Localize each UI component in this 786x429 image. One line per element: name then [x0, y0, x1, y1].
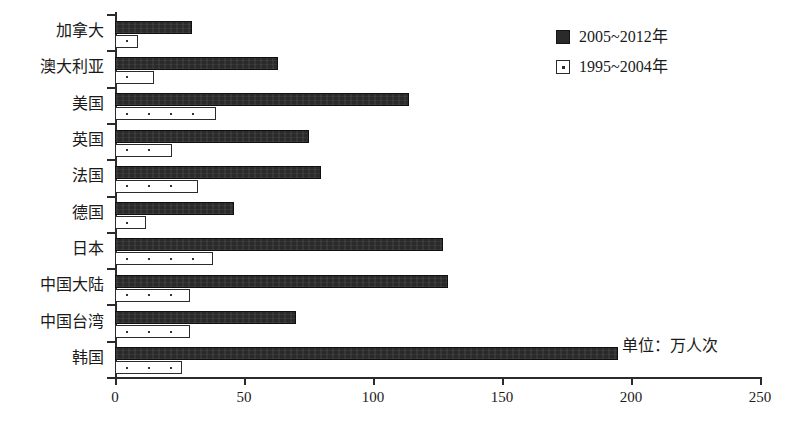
legend-swatch-white-dotted-square	[556, 60, 570, 74]
category-label-1: 澳大利亚	[0, 57, 104, 77]
bar-dot-pattern	[116, 112, 215, 116]
legend-item-1: 1995~2004年	[556, 52, 668, 82]
bar-20052012-4	[115, 166, 321, 179]
x-tick-label-0: 0	[85, 388, 145, 406]
legend-label-1: 1995~2004年	[579, 58, 668, 76]
category-label-7: 中国大陆	[0, 275, 104, 295]
bar-20052012-3	[115, 130, 309, 143]
legend-item-0: 2005~2012年	[556, 22, 668, 52]
legend-label-0: 2005~2012年	[579, 28, 668, 46]
bar-20052012-6	[115, 238, 443, 251]
bar-19952004-9	[115, 361, 182, 374]
bar-dot-pattern	[116, 257, 212, 261]
bar-dot-pattern	[116, 148, 171, 152]
unit-annotation: 单位：万人次	[622, 336, 718, 356]
category-label-0: 加拿大	[0, 21, 104, 41]
category-label-3: 英国	[0, 130, 104, 150]
chart-legend: 2005~2012年 1995~2004年	[556, 22, 668, 82]
bar-20052012-9	[115, 347, 618, 360]
category-label-4: 法国	[0, 166, 104, 186]
x-tick-label-150: 150	[472, 388, 532, 406]
category-label-6: 日本	[0, 239, 104, 259]
bar-20052012-0	[115, 21, 192, 34]
bar-20052012-5	[115, 202, 234, 215]
x-tick-0	[115, 377, 117, 385]
bar-19952004-0	[115, 35, 138, 48]
bar-dot-pattern	[116, 221, 145, 225]
legend-swatch-filled-black-square	[556, 30, 570, 44]
bar-19952004-7	[115, 289, 190, 302]
bar-19952004-3	[115, 144, 172, 157]
x-tick-label-250: 250	[730, 388, 786, 406]
bar-chart: 加拿大澳大利亚美国英国法国德国日本中国大陆中国台湾韩国 050100150200…	[0, 0, 786, 429]
category-label-2: 美国	[0, 94, 104, 114]
bar-dot-pattern	[116, 293, 189, 297]
bar-dot-pattern	[116, 184, 197, 188]
x-tick-50	[244, 377, 246, 385]
category-label-8: 中国台湾	[0, 312, 104, 332]
bar-19952004-5	[115, 216, 146, 229]
bar-19952004-8	[115, 325, 190, 338]
x-tick-150	[502, 377, 504, 385]
bar-19952004-6	[115, 252, 213, 265]
x-tick-label-100: 100	[343, 388, 403, 406]
bar-19952004-4	[115, 180, 198, 193]
bar-19952004-2	[115, 107, 216, 120]
bar-20052012-7	[115, 275, 448, 288]
x-tick-100	[373, 377, 375, 385]
category-label-5: 德国	[0, 203, 104, 223]
bar-dot-pattern	[116, 75, 153, 79]
x-tick-200	[631, 377, 633, 385]
bar-20052012-1	[115, 57, 278, 70]
x-tick-label-50: 50	[214, 388, 274, 406]
bar-dot-pattern	[116, 39, 137, 43]
bar-20052012-2	[115, 93, 409, 106]
x-tick-label-200: 200	[601, 388, 661, 406]
bar-19952004-1	[115, 71, 154, 84]
category-label-9: 韩国	[0, 348, 104, 368]
bar-dot-pattern	[116, 366, 181, 370]
bar-dot-pattern	[116, 330, 189, 334]
x-tick-250	[760, 377, 762, 385]
x-axis-line	[115, 377, 761, 379]
bar-20052012-8	[115, 311, 296, 324]
